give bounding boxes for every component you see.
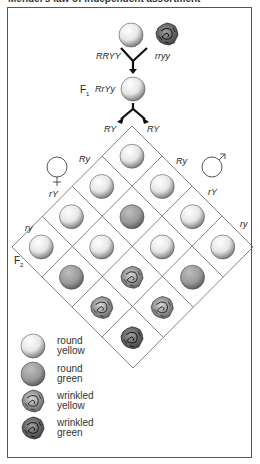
seed-round-yellow <box>150 235 174 259</box>
male-gamete-1: Ry <box>176 157 187 166</box>
female-gamete-2: rY <box>49 190 58 199</box>
legend-label: wrinkledgreen <box>57 418 94 438</box>
female-gamete-3: ry <box>25 224 33 233</box>
seed-round-yellow <box>181 205 205 229</box>
f1-seed-round-yellow <box>121 77 145 101</box>
f2-label: F2 <box>14 256 23 268</box>
f1-subscript: 1 <box>86 91 89 97</box>
seed-round-green <box>181 265 205 289</box>
split-arrow <box>121 103 145 119</box>
male-symbol-icon <box>202 154 225 177</box>
f1-label: F1 <box>80 85 89 97</box>
seed-wrinkled-yellow <box>151 297 173 319</box>
female-symbol-icon <box>47 157 67 186</box>
parent-seed-wrinkled-green <box>156 23 178 45</box>
seed-round-green <box>120 205 144 229</box>
arrow-head-icon <box>129 69 137 74</box>
seed-round-yellow <box>211 235 235 259</box>
male-gamete-3: ry <box>240 220 248 229</box>
parent-genotype-recessive: rryy <box>155 52 170 61</box>
legend-item-round-green: roundgreen <box>20 362 140 388</box>
seed-round-yellow <box>90 175 114 199</box>
female-gamete-0: RY <box>104 125 116 134</box>
seed-round-yellow <box>90 235 114 259</box>
female-gamete-1: Ry <box>79 155 90 164</box>
legend-item-wrinkled-green: wrinkledgreen <box>20 416 140 442</box>
seed-wrinkled-yellow <box>121 266 143 288</box>
seed-round-yellow <box>120 144 144 168</box>
legend-label: roundgreen <box>57 364 83 384</box>
legend-item-wrinkled-yellow: wrinkledyellow <box>20 389 140 415</box>
legend-label: wrinkledyellow <box>57 391 94 411</box>
legend-line2: yellow <box>57 400 85 411</box>
legend-label: roundyellow <box>57 336 85 356</box>
legend-line2: green <box>57 373 83 384</box>
parent-genotype-dominant: RRYY <box>96 52 121 61</box>
male-gamete-2: rY <box>208 188 217 197</box>
seed-round-yellow <box>60 205 84 229</box>
seed-round-yellow <box>29 235 53 259</box>
legend-line2: yellow <box>57 345 85 356</box>
parent-seed-round-yellow <box>119 23 143 47</box>
seed-round-green <box>60 265 84 289</box>
seed-wrinkled-yellow <box>91 297 113 319</box>
male-gamete-0: RY <box>147 125 159 134</box>
f1-genotype: RrYy <box>95 85 115 94</box>
legend-line2: green <box>57 427 83 438</box>
cross-arrow <box>121 48 147 71</box>
legend-item-round-yellow: roundyellow <box>20 334 140 360</box>
seed-round-yellow <box>150 175 174 199</box>
f2-subscript: 2 <box>20 262 23 268</box>
